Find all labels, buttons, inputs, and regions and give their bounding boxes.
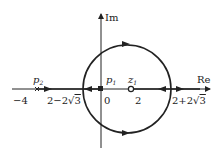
zero-z1-marker	[128, 86, 133, 91]
root-locus-diagram: Im Re p2 p1 z1 −4 0 2 2−2√3 2+2√3	[0, 0, 219, 158]
real-axis-label: Re	[197, 74, 211, 85]
arrow-right-icon	[122, 130, 130, 136]
tick-label-minus4: −4	[13, 95, 28, 106]
breakpoint-label-right: 2+2√3	[172, 95, 206, 106]
arrow-right-icon	[176, 86, 184, 92]
pole-p2-label: p2	[33, 74, 43, 86]
arrow-left-icon	[84, 86, 92, 92]
breakpoint-label-left: 2−2√3	[47, 95, 81, 106]
pole-p1-label: p1	[106, 74, 116, 86]
tick-label-2: 2	[135, 95, 141, 106]
arrow-right-icon	[122, 41, 130, 47]
pole-p1-marker	[98, 86, 103, 91]
arrow-left-icon	[158, 86, 166, 92]
imag-axis-label: Im	[105, 12, 119, 23]
zero-z1-label: z1	[127, 74, 137, 86]
arrow-right-icon	[44, 86, 52, 92]
tick-label-0: 0	[104, 95, 110, 106]
